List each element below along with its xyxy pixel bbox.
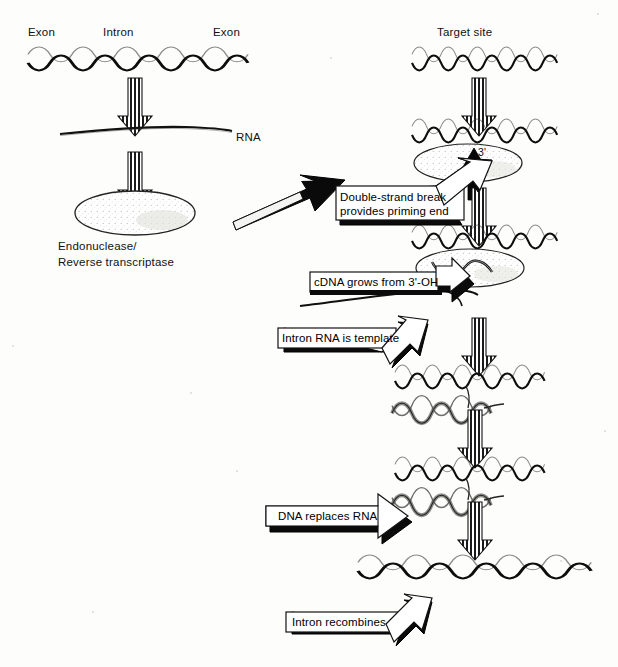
arrow-reverse-transcription [462, 318, 496, 376]
cleaved-duplex-helix [412, 119, 557, 142]
arrow-translation [118, 152, 152, 210]
scan-speckle [597, 13, 599, 15]
scan-speckle [330, 57, 332, 59]
recombined-duplex-helix [358, 555, 591, 578]
label-target-site: Target site [437, 26, 492, 38]
callout-text-double-strand-break-line2: provides priming end [340, 204, 449, 218]
scan-speckle [92, 611, 94, 613]
callout-text-cdna-grows: cDNA grows from 3'-OH [314, 275, 438, 289]
scan-speckle [12, 345, 14, 347]
enzyme-ellipse-upper-right [414, 144, 522, 182]
arrow-final-repair [458, 502, 492, 560]
callout-text-double-strand-break-line1: Double-strand break [340, 190, 446, 204]
scan-speckle [236, 470, 238, 472]
hybrid-tail-upper [484, 404, 504, 408]
enzyme-ellipse-left [75, 191, 195, 235]
hybrid-link-upper [466, 386, 469, 408]
hybrid-tail-lower [484, 496, 504, 500]
intron-rna-template-strand [300, 290, 478, 306]
scan-speckle [190, 392, 192, 394]
diagram-canvas: Exon Intron Exon RNA Endonuclease/ Rever… [0, 0, 618, 667]
label-enzyme-line1: Endonuclease/ [58, 240, 137, 252]
hybrid-link-lower [466, 478, 469, 500]
dna-replaces-rna-duplex-helix [395, 457, 545, 480]
arrow-hybrid-to-dna [458, 410, 492, 468]
callout-text-dna-replaces-rna: DNA replaces RNA [278, 509, 377, 523]
label-rna: RNA [236, 131, 261, 143]
hybrid-duplex-helix [395, 365, 545, 388]
arrow-transcription [118, 78, 152, 136]
label-three-prime: 3' [478, 146, 486, 158]
arrow-diagonal-connector [233, 175, 345, 230]
genomic-dna-helix [28, 47, 248, 70]
label-exon-left: Exon [28, 26, 55, 38]
rna-dna-hybrid-strand-upper [392, 396, 491, 424]
scan-speckle [604, 430, 606, 432]
rna-transcript [60, 127, 232, 136]
arrow-target-cleavage [462, 78, 496, 136]
label-exon-right: Exon [213, 26, 240, 38]
callout-text-intron-recombines: Intron recombines [292, 615, 386, 629]
label-intron: Intron [103, 26, 134, 38]
cdna-duplex-helix [412, 225, 557, 248]
callout-text-intron-rna-template: Intron RNA is template [282, 331, 399, 345]
label-enzyme-line2: Reverse transcriptase [58, 256, 174, 268]
scan-speckle [560, 560, 562, 562]
arrow-cdna-priming [462, 188, 496, 246]
rna-dna-hybrid-strand-lower [392, 488, 491, 516]
target-site-helix [412, 47, 557, 70]
